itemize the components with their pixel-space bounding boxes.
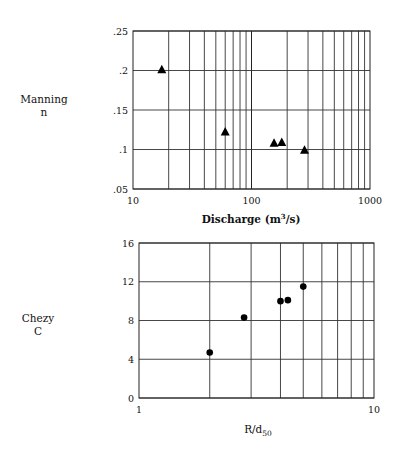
y-tick-label: 8 [128,315,134,326]
circle-marker [241,314,248,321]
y-axis-label: n [41,106,48,118]
x-tick-label: 100 [242,195,260,206]
x-axis-label: Discharge (m3/s) [202,212,301,225]
circle-marker [285,297,292,304]
x-tick-label: 10 [368,404,380,415]
y-tick-label: .05 [113,184,128,195]
x-tick-label: 1000 [358,195,382,206]
chezy-chart: 0481216110ChezyCR/d50 [22,238,380,439]
circle-marker [300,283,307,290]
triangle-marker [157,65,166,74]
y-tick-label: 4 [128,354,134,365]
manning-chart: .05.1.15.2.25101001000ManningnDischarge … [20,26,382,226]
y-axis-label: Manning [20,93,68,105]
y-tick-label: 0 [128,393,134,404]
y-tick-label: 12 [122,276,134,287]
circle-marker [206,349,213,356]
y-tick-label: .1 [119,144,128,155]
figure: .05.1.15.2.25101001000ManningnDischarge … [0,0,407,454]
circle-marker [277,298,284,305]
triangle-marker [270,138,279,147]
y-axis-label: C [34,325,42,337]
x-axis-label: R/d50 [244,423,272,438]
triangle-marker [221,127,230,135]
x-tick-label: 1 [136,404,142,415]
y-tick-label: .15 [113,105,128,116]
y-tick-label: .25 [113,26,128,37]
y-tick-label: 16 [122,238,134,249]
x-tick-label: 10 [127,195,139,206]
y-tick-label: .2 [119,65,128,76]
triangle-marker [277,137,286,146]
y-axis-label: Chezy [22,312,55,324]
